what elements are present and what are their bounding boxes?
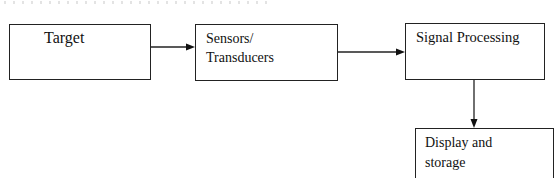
block-signal-processing: Signal Processing [405, 23, 545, 80]
block-display-storage: Display and storage [415, 128, 554, 178]
block-label: Target [44, 29, 84, 47]
arrow-signal-processing-to-display [471, 80, 478, 128]
block-target: Target [9, 24, 151, 80]
block-label-line: storage [425, 153, 492, 173]
block-label-line: Display and [425, 133, 492, 153]
block-label-line: Target [44, 29, 84, 47]
block-label-line: Signal Processing [416, 28, 520, 46]
arrow-sensors-to-signal-processing [338, 49, 405, 56]
arrowhead-icon [186, 44, 195, 51]
block-sensors-transducers: Sensors/ Transducers [195, 24, 338, 81]
block-label: Sensors/ Transducers [206, 29, 274, 67]
caption-text-descenders [4, 1, 270, 4]
arrowhead-icon [471, 119, 478, 128]
block-label: Signal Processing [416, 28, 520, 46]
arrowhead-icon [396, 49, 405, 56]
arrow-target-to-sensors [151, 44, 195, 51]
block-label-line: Sensors/ [206, 29, 274, 48]
figure-caption-cropped [0, 0, 554, 6]
block-label-line: Transducers [206, 48, 274, 67]
block-label: Display and storage [425, 133, 492, 173]
